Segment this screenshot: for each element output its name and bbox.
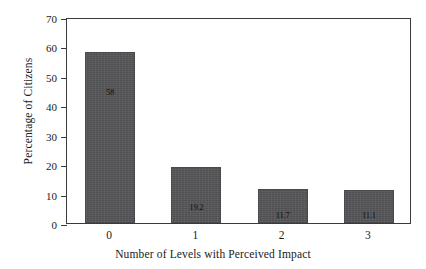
x-axis-title: Number of Levels with Perceived Impact [0,248,426,260]
y-axis-tick-label: 30 [46,131,57,143]
y-axis-tick: 40 [61,107,67,108]
y-axis-tick-label: 40 [46,101,57,113]
bar-value-label: 11.7 [259,210,307,220]
y-axis-tick-label: 50 [46,72,57,84]
y-axis-tick-label: 70 [46,13,57,25]
bar-chart-figure: Percentage of Citizens 01020304050607058… [0,0,426,269]
bar: 58 [85,52,135,223]
y-axis-tick-label: 60 [46,42,57,54]
bar-value-label: 19.2 [172,202,220,212]
y-axis-tick: 0 [61,225,67,226]
x-axis-tick-label: 1 [165,229,225,241]
y-axis-tick: 30 [61,137,67,138]
bar-value-label: 58 [86,87,134,97]
x-axis-tick-label: 3 [338,229,398,241]
plot-area: 0102030405060705819.211.711.1 [66,18,411,224]
y-axis-tick-label: 0 [52,219,58,231]
bar-value-label: 11.1 [345,210,393,220]
x-axis-tick-label: 0 [79,229,139,241]
y-axis-tick-label: 10 [46,190,57,202]
bar: 19.2 [171,167,221,224]
bar: 11.1 [344,190,394,223]
y-axis-tick: 60 [61,48,67,49]
x-axis-tick-label: 2 [252,229,312,241]
y-axis-tick-label: 20 [46,160,57,172]
y-axis-title: Percentage of Citizens [22,1,34,221]
y-axis-tick: 50 [61,78,67,79]
bar: 11.7 [258,189,308,223]
y-axis-tick: 20 [61,166,67,167]
y-axis-tick: 10 [61,196,67,197]
y-axis-tick: 70 [61,19,67,20]
